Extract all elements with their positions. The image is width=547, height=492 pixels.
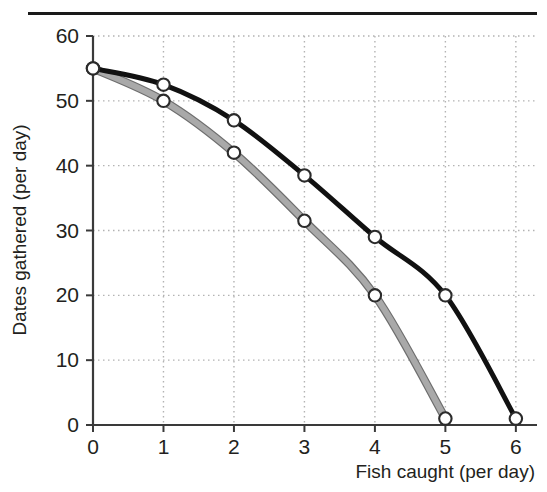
data-point-marker	[87, 62, 99, 74]
data-point-marker	[298, 215, 310, 227]
y-tick-label: 30	[56, 219, 79, 242]
data-point-marker	[228, 114, 240, 126]
chart-plot-area: 01234560102030405060 Fish caught (per da…	[0, 0, 547, 492]
data-point-marker	[439, 289, 451, 301]
data-point-marker	[369, 289, 381, 301]
data-point-marker	[439, 412, 451, 424]
y-tick-label: 0	[67, 413, 79, 436]
x-tick-label: 0	[87, 435, 99, 458]
y-tick-label: 10	[56, 348, 79, 371]
x-tick-label: 5	[440, 435, 452, 458]
x-axis-title: Fish caught (per day)	[355, 461, 535, 482]
x-tick-label: 2	[228, 435, 240, 458]
y-tick-label: 50	[56, 89, 79, 112]
y-axis-title: Dates gathered (per day)	[9, 124, 30, 335]
y-tick-label: 40	[56, 154, 79, 177]
tick-labels-group: 01234560102030405060	[56, 24, 522, 458]
data-point-marker	[157, 95, 169, 107]
series-line-inner-frontier	[93, 68, 445, 418]
x-tick-label: 4	[369, 435, 381, 458]
x-tick-label: 6	[510, 435, 522, 458]
x-tick-label: 1	[158, 435, 170, 458]
data-point-marker	[228, 147, 240, 159]
data-point-marker	[157, 78, 169, 90]
data-point-marker	[510, 412, 522, 424]
series-line-outline	[93, 68, 445, 418]
x-tick-label: 3	[299, 435, 311, 458]
y-tick-label: 60	[56, 24, 79, 47]
chart-figure: 01234560102030405060 Fish caught (per da…	[0, 0, 547, 492]
y-tick-label: 20	[56, 283, 79, 306]
data-point-marker	[298, 169, 310, 181]
data-point-marker	[369, 231, 381, 243]
